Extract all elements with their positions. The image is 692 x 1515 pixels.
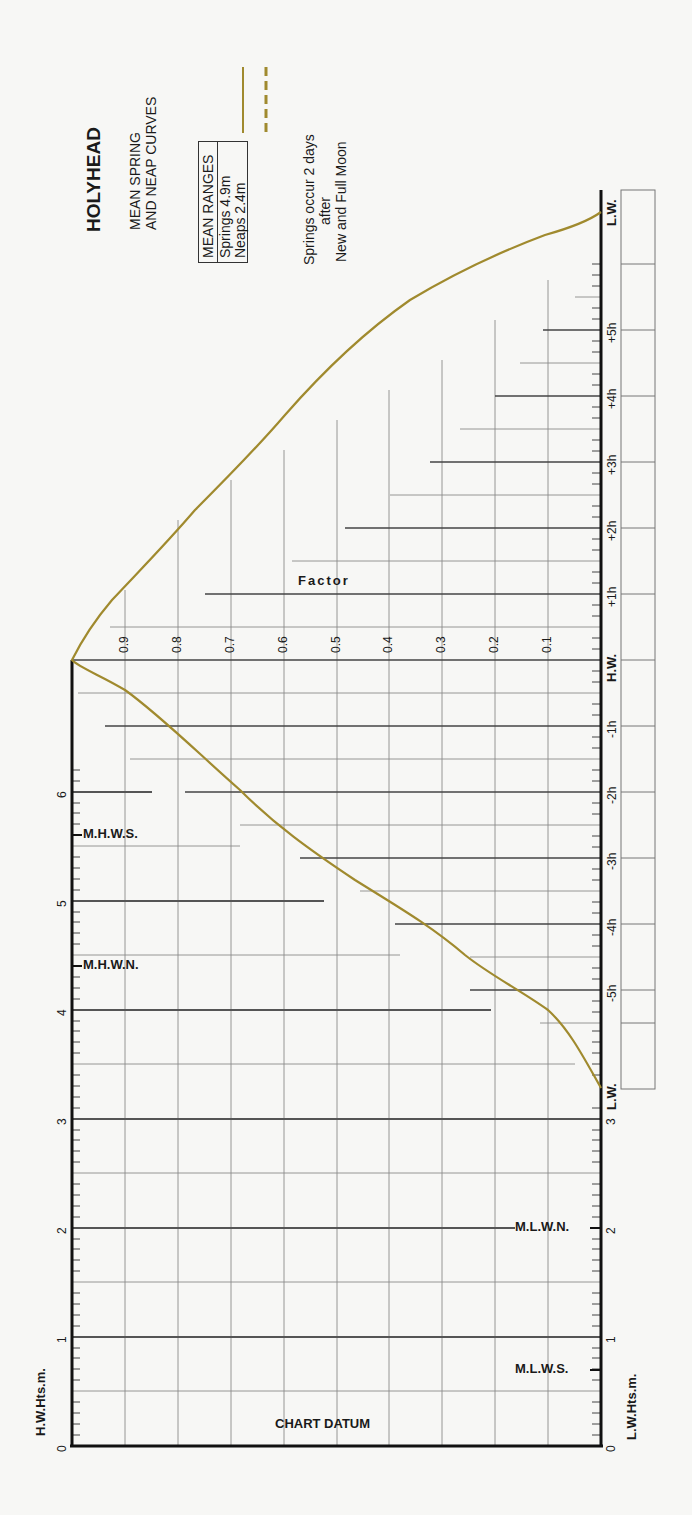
time-label-plus1: +1h bbox=[605, 587, 619, 607]
hw-height-tick-5: 5 bbox=[55, 900, 69, 907]
hw-height-tick-3: 3 bbox=[55, 1118, 69, 1125]
time-label-box bbox=[621, 190, 655, 1089]
factor-tick-0.4: 0.4 bbox=[381, 636, 395, 653]
time-label-plus5: +5h bbox=[605, 323, 619, 343]
neaps-range: Neaps 2.4m bbox=[233, 142, 248, 262]
subtitle-line1: MEAN SPRING bbox=[128, 132, 143, 230]
factor-tick-0.6: 0.6 bbox=[276, 636, 290, 653]
datum-marker-ticks bbox=[72, 835, 601, 1370]
time-label-lw-end: L.W. bbox=[604, 199, 619, 226]
time-label-lw-start: L.W. bbox=[604, 1083, 619, 1110]
factor-tick-0.7: 0.7 bbox=[223, 636, 237, 653]
hw-height-tick-4: 4 bbox=[55, 1009, 69, 1016]
height-lines bbox=[72, 792, 601, 1337]
factor-tick-0.2: 0.2 bbox=[487, 636, 501, 653]
factor-tick-0.8: 0.8 bbox=[170, 636, 184, 653]
lw-height-tick-3: 3 bbox=[604, 1118, 618, 1125]
main-axes bbox=[70, 190, 603, 1447]
springs-note-line1: Springs occur 2 days bbox=[302, 134, 317, 265]
time-label-minus4: -4h bbox=[605, 919, 619, 936]
chart-datum-label: CHART DATUM bbox=[275, 1416, 370, 1431]
lw-height-tick-1: 1 bbox=[604, 1336, 618, 1343]
factor-axis-title: Factor bbox=[298, 573, 350, 588]
hw-height-tick-0: 0 bbox=[55, 1445, 69, 1452]
mhwn-label: M.H.W.N. bbox=[83, 957, 139, 972]
time-label-minus3: -3h bbox=[605, 853, 619, 870]
time-label-minus1: -1h bbox=[605, 721, 619, 738]
mlws-label: M.L.W.S. bbox=[515, 1361, 568, 1376]
station-title: HOLYHEAD bbox=[83, 127, 105, 232]
hw-height-tick-2: 2 bbox=[55, 1227, 69, 1234]
subtitle-line2: AND NEAP CURVES bbox=[144, 97, 159, 230]
time-label-plus3: +3h bbox=[605, 455, 619, 475]
time-label-minus5: -5h bbox=[605, 985, 619, 1002]
mean-ranges-heading: MEAN RANGES bbox=[199, 142, 218, 262]
time-label-plus4: +4h bbox=[605, 389, 619, 409]
lw-heights-axis-label: L.W.Hts.m. bbox=[624, 1374, 639, 1440]
mhws-label: M.H.W.S. bbox=[83, 826, 138, 841]
mlwn-label: M.L.W.N. bbox=[515, 1219, 569, 1234]
factor-tick-0.3: 0.3 bbox=[434, 636, 448, 653]
factor-tick-0.9: 0.9 bbox=[117, 636, 131, 653]
lw-height-tick-2: 2 bbox=[604, 1227, 618, 1234]
factor-tick-0.5: 0.5 bbox=[329, 636, 343, 653]
lw-height-tick-0: 0 bbox=[604, 1445, 618, 1452]
springs-range: Springs 4.9m bbox=[218, 142, 233, 262]
hw-heights-axis-label: H.W.Hts.m. bbox=[33, 1368, 48, 1436]
factor-gridlines bbox=[125, 280, 548, 1446]
springs-note-line3: New and Full Moon bbox=[334, 141, 349, 262]
mean-ranges-box: MEAN RANGES Springs 4.9m Neaps 2.4m bbox=[198, 141, 248, 263]
hw-height-tick-6: 6 bbox=[55, 791, 69, 798]
time-label-hw: H.W. bbox=[604, 654, 619, 682]
hw-height-tick-1: 1 bbox=[55, 1336, 69, 1343]
time-label-plus2: +2h bbox=[605, 521, 619, 541]
time-label-minus2: -2h bbox=[605, 787, 619, 804]
legend-lines bbox=[243, 67, 266, 133]
factor-tick-0.1: 0.1 bbox=[540, 636, 554, 653]
springs-note-line2: after bbox=[318, 197, 333, 225]
